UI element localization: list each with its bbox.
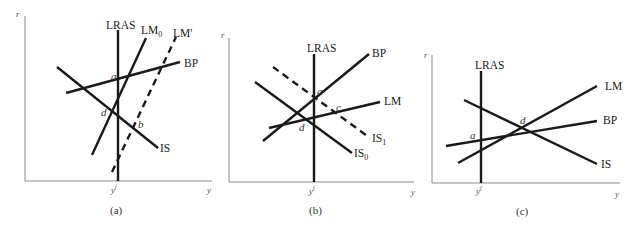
panel-c-lras-label: LRAS: [475, 59, 504, 71]
panel-b-is1-subscript: 1: [382, 138, 386, 147]
panel-b-is1-text: IS: [372, 132, 382, 144]
panel-b-point-c: c: [336, 101, 341, 113]
panel-b-lm-label: LM: [384, 95, 401, 107]
panel-a-yf-tick: yf: [110, 184, 118, 195]
panel-b: r y LRAS BP LM IS1 IS0 a c d yf (b): [221, 30, 415, 217]
panel-c-is-label: IS: [601, 158, 611, 170]
panel-b-lras-label: LRAS: [307, 42, 336, 54]
panel-b-is0-subscript: 0: [364, 153, 368, 162]
panel-c-bp-label: BP: [603, 114, 617, 126]
panel-c-lm-label: LM: [605, 80, 622, 92]
panel-b-yf-sup: f: [313, 185, 316, 191]
panel-b-point-a: a: [317, 85, 323, 97]
panel-c-is-line: [464, 100, 597, 164]
panel-a-point-a: a: [111, 70, 117, 82]
panel-b-is1-label: IS1: [372, 132, 386, 147]
panel-c-x-axis-label: y: [614, 189, 619, 199]
panel-a-lm0-text: LM: [141, 24, 158, 36]
panel-a-y-axis-label: r: [16, 9, 20, 19]
panel-c: r y LRAS LM BP IS a d yf (c): [424, 50, 622, 218]
panel-b-is0-line: [255, 82, 352, 153]
panel-b-yf-tick: yf: [308, 185, 316, 196]
panel-b-bp-label: BP: [372, 47, 386, 59]
panel-c-point-a: a: [470, 129, 476, 141]
panel-b-is1-line: [273, 67, 370, 138]
panel-a-lm-prime-label: LM': [173, 27, 192, 39]
is-lm-bp-diagram: r y LRAS LM0 LM' BP IS a d b yf (a) r y …: [0, 0, 636, 231]
panel-c-yf-tick: yf: [475, 185, 483, 196]
panel-a-point-d: d: [101, 106, 107, 118]
panel-c-y-axis-label: r: [424, 50, 428, 60]
panel-a-is-line: [57, 67, 158, 148]
panel-b-x-axis-label: y: [410, 187, 415, 197]
panel-a-lm0-label: LM0: [141, 24, 162, 39]
panel-a-lm0-subscript: 0: [158, 30, 162, 39]
panel-c-caption: (c): [516, 205, 529, 218]
panel-c-point-d: d: [520, 114, 526, 126]
panel-a-lras-label: LRAS: [106, 19, 135, 31]
panel-a-yf-sup: f: [115, 184, 118, 190]
panel-a-x-axis-label: y: [206, 185, 211, 195]
panel-b-is0-text: IS: [354, 147, 364, 159]
panel-b-is0-label: IS0: [354, 147, 368, 162]
panel-a: r y LRAS LM0 LM' BP IS a d b yf (a): [16, 9, 212, 217]
panel-c-yf-sup: f: [480, 185, 483, 191]
panel-b-caption: (b): [309, 204, 322, 217]
panel-a-is-label: IS: [160, 142, 170, 154]
panel-a-point-b: b: [138, 118, 144, 130]
panel-b-point-d: d: [299, 121, 305, 133]
panel-a-caption: (a): [110, 204, 123, 217]
panel-a-bp-label: BP: [184, 57, 198, 69]
panel-b-y-axis-label: r: [221, 30, 225, 40]
